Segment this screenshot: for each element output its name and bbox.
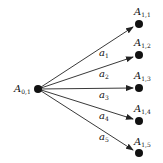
- edge-label-4: a4: [99, 110, 109, 122]
- target-node-1: [135, 20, 143, 28]
- target-label-4: A1,4: [133, 103, 151, 115]
- source-node: [34, 85, 42, 93]
- target-node-2: [135, 51, 143, 59]
- edge-label-5: a5: [99, 131, 109, 143]
- target-label-3: A1,3: [133, 70, 151, 82]
- edge-label-3: a3: [99, 89, 109, 101]
- edge-1: [38, 27, 133, 89]
- target-label-1: A1,1: [133, 6, 151, 18]
- tree-diagram: A0,1 A1,1 A1,2 A1,3 A1,4 A1,5 a1 a2 a3 a…: [0, 0, 163, 163]
- target-label-5: A1,5: [133, 136, 151, 148]
- edge-2: [38, 57, 133, 89]
- edge-label-1: a1: [99, 47, 109, 59]
- edge-label-2: a2: [99, 68, 109, 80]
- edge-4: [38, 89, 133, 119]
- target-label-2: A1,2: [133, 37, 151, 49]
- target-node-4: [135, 117, 143, 125]
- target-node-5: [135, 149, 143, 157]
- source-label: A0,1: [13, 83, 31, 95]
- target-node-3: [135, 84, 143, 92]
- edge-3: [38, 88, 133, 89]
- edge-5: [38, 89, 133, 150]
